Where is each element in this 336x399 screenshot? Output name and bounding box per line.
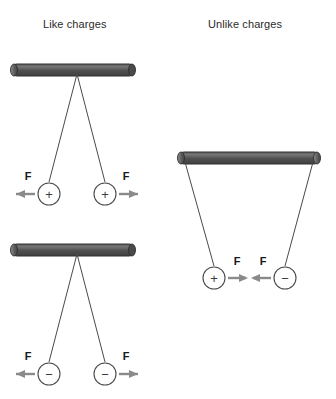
thread-left: [185, 162, 214, 266]
thread-right: [77, 254, 105, 362]
charge-sign: −: [45, 367, 53, 382]
support-bar-cap-left: [178, 152, 185, 164]
force-arrow-head: [239, 274, 248, 282]
force-label: F: [123, 170, 130, 182]
force-arrow-head: [129, 370, 138, 378]
charge-left: − F: [16, 350, 60, 385]
support-bar: [178, 152, 321, 164]
force-arrow-head: [129, 190, 138, 198]
diagram-like-positive: + F + F: [11, 64, 139, 205]
charge-sign: −: [281, 271, 289, 286]
force-label: F: [25, 170, 32, 182]
diagram-unlike-pair: + F − F: [178, 152, 321, 289]
support-bar-body: [179, 152, 319, 164]
charge-right: + F: [94, 170, 138, 205]
charge-sign: −: [101, 367, 109, 382]
electrostatics-figure: Like charges Unlike charges: [0, 0, 336, 399]
support-bar-cap-left: [11, 64, 18, 76]
force-arrow-head: [251, 274, 260, 282]
force-label: F: [25, 350, 32, 362]
diagram-like-negative: − F − F: [11, 244, 139, 385]
thread-left: [49, 74, 77, 182]
charge-sign: +: [45, 187, 53, 202]
support-bar-body: [12, 244, 134, 256]
force-label: F: [123, 350, 130, 362]
support-bar: [11, 244, 136, 256]
charge-sign: +: [210, 271, 218, 286]
charge-left: + F: [203, 255, 248, 289]
charge-right: − F: [94, 350, 138, 385]
support-bar-cap-right: [129, 244, 136, 256]
support-bar-cap-left: [11, 244, 18, 256]
charge-sign: +: [101, 187, 109, 202]
thread-right: [77, 74, 105, 182]
support-bar-cap-right: [314, 152, 321, 164]
support-bar-cap-right: [129, 64, 136, 76]
thread-left: [49, 254, 77, 362]
charge-right: − F: [251, 255, 296, 289]
force-label: F: [234, 255, 241, 267]
support-bar: [11, 64, 136, 76]
force-arrow-head: [16, 190, 25, 198]
support-bar-body: [12, 64, 134, 76]
charge-left: + F: [16, 170, 60, 205]
diagram-canvas: + F + F: [0, 0, 336, 399]
thread-right: [285, 162, 313, 266]
force-arrow-head: [16, 370, 25, 378]
force-label: F: [260, 255, 267, 267]
